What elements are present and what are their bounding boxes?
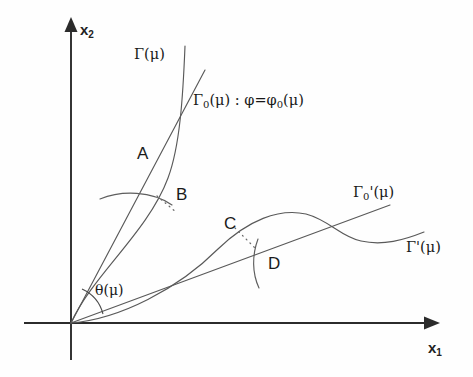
gamma0-prime-label-gamma: Γ <box>353 184 363 200</box>
gamma0-prime-line-label: Γ0'(μ) <box>353 185 394 202</box>
gamma-curve-label: Γ(μ) <box>134 47 165 62</box>
point-label-d: D <box>268 255 280 272</box>
point-label-c: C <box>224 215 236 232</box>
y-axis-label-subscript: 2 <box>88 29 94 40</box>
x-axis-label-subscript: 1 <box>436 347 442 358</box>
dotted-link-c-d <box>235 228 256 249</box>
x-axis-arrowhead <box>424 317 440 330</box>
y-axis-label: x2 <box>80 22 94 40</box>
point-label-a: A <box>137 145 148 162</box>
diagram-canvas <box>0 0 473 377</box>
gamma0-prime-label-tail: '(μ) <box>369 184 394 200</box>
y-axis-arrowhead <box>65 17 78 32</box>
theta-angle-label: θ(μ) <box>95 283 123 297</box>
gamma0-label-rest: (μ) : φ=φ <box>209 92 276 108</box>
figure-container: x2 x1 Γ(μ) Γ0(μ) : φ=φ0(μ) Γ0'(μ) Γ'(μ) … <box>0 0 473 377</box>
tangent-arc-at-d <box>254 239 259 288</box>
gamma0-label-tail: (μ) <box>283 92 304 108</box>
point-label-b: B <box>176 186 187 203</box>
gamma0-label-gamma: Γ <box>193 92 203 108</box>
gamma-prime-curve <box>71 212 424 323</box>
gamma-curve <box>71 46 185 323</box>
x-axis-label: x1 <box>428 340 442 358</box>
gamma-prime-curve-label: Γ'(μ) <box>406 240 441 255</box>
gamma0-line-label: Γ0(μ) : φ=φ0(μ) <box>193 93 304 110</box>
